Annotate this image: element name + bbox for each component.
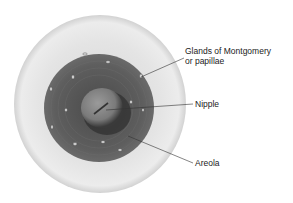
label-glands-line2: or papillae — [185, 56, 271, 66]
label-areola: Areola — [195, 158, 220, 168]
label-glands-of-montgomery: Glands of Montgomery or papillae — [185, 46, 271, 66]
label-glands-line1: Glands of Montgomery — [185, 46, 271, 56]
breast-anatomy-diagram — [0, 0, 293, 203]
label-nipple: Nipple — [195, 99, 219, 109]
